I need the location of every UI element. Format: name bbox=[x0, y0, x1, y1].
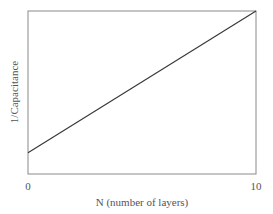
x-tick-0: 0 bbox=[25, 180, 31, 192]
data-line bbox=[28, 11, 256, 153]
plot-frame bbox=[28, 11, 256, 174]
chart-canvas: 0 10 N (number of layers) 1/Capacitance bbox=[0, 0, 273, 214]
x-axis-label: N (number of layers) bbox=[96, 196, 189, 209]
x-tick-10: 10 bbox=[251, 180, 263, 192]
y-axis-label: 1/Capacitance bbox=[8, 61, 20, 123]
